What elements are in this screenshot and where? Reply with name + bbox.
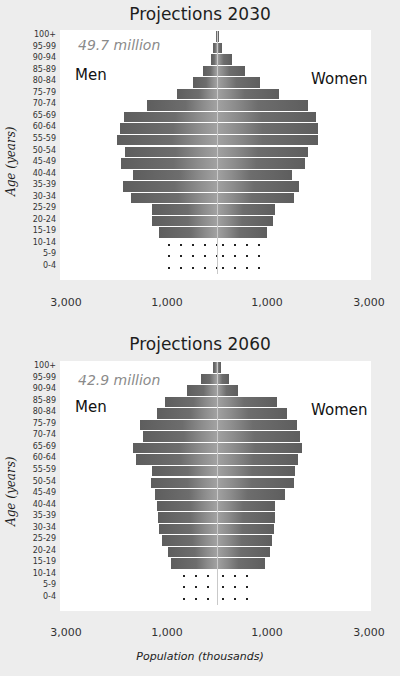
bar-women <box>217 547 270 558</box>
bar-men <box>168 547 217 558</box>
bar-women <box>217 558 265 569</box>
bar-men <box>187 385 217 396</box>
bar-women <box>217 466 295 477</box>
bar-men <box>178 581 217 592</box>
bar-men <box>157 408 217 419</box>
age-group-label: 30-34 <box>33 522 56 533</box>
x-tick: 1,000 <box>251 626 283 639</box>
age-group-label: 90-94 <box>33 383 56 394</box>
bar-men <box>165 397 217 408</box>
bar-women <box>217 512 275 523</box>
chart-title: Projections 2060 <box>0 334 400 354</box>
age-group-label: 80-84 <box>33 406 56 417</box>
age-group-label: 55-59 <box>33 464 56 475</box>
bar-men <box>159 524 217 535</box>
bar-men <box>143 431 217 442</box>
y-axis-title: Age (years) <box>4 456 18 526</box>
bar-women <box>217 431 300 442</box>
bar-women <box>217 593 255 604</box>
women-label: Women <box>311 401 367 419</box>
bar-women <box>217 581 255 592</box>
bar-women <box>217 397 277 408</box>
bar-men <box>155 489 217 500</box>
x-tick: 1,000 <box>151 626 183 639</box>
bar-men <box>162 535 217 546</box>
bar-men <box>158 512 217 523</box>
age-group-label: 15-19 <box>33 556 56 567</box>
x-tick: 3,000 <box>353 626 385 639</box>
age-group-label: 45-49 <box>33 487 56 498</box>
bar-women <box>217 420 297 431</box>
age-group-label: 60-64 <box>33 452 56 463</box>
pyramid-2060: Projections 2060 100+95-9990-9485-8980-8… <box>0 0 400 676</box>
age-group-label: 20-24 <box>33 545 56 556</box>
bar-women <box>217 489 285 500</box>
age-group-label: 75-79 <box>33 418 56 429</box>
bar-women <box>217 408 287 419</box>
bar-men <box>157 501 217 512</box>
age-group-label: 25-29 <box>33 533 56 544</box>
bar-women <box>217 385 238 396</box>
men-label: Men <box>75 398 107 416</box>
bar-men <box>151 478 217 489</box>
bar-men <box>201 374 217 385</box>
bar-men <box>171 558 217 569</box>
age-group-label: 5-9 <box>43 579 56 590</box>
age-group-label: 65-69 <box>33 441 56 452</box>
age-group-label: 10-14 <box>33 568 56 579</box>
bar-women <box>217 501 275 512</box>
center-axis-line <box>217 362 218 605</box>
bar-men <box>178 593 217 604</box>
age-group-label: 100+ <box>34 360 56 371</box>
age-group-label: 85-89 <box>33 395 56 406</box>
bar-men <box>178 570 217 581</box>
age-group-label: 40-44 <box>33 499 56 510</box>
bar-women <box>217 478 294 489</box>
age-group-label: 95-99 <box>33 372 56 383</box>
bar-women <box>217 374 229 385</box>
total-population: 42.9 million <box>78 372 160 388</box>
bar-women <box>217 524 274 535</box>
x-axis-title: Population (thousands) <box>0 650 400 663</box>
age-group-label: 0-4 <box>43 591 56 602</box>
bar-men <box>140 420 217 431</box>
age-group-label: 35-39 <box>33 510 56 521</box>
bar-women <box>217 454 298 465</box>
bar-men <box>152 466 217 477</box>
bar-women <box>217 570 255 581</box>
x-tick: 3,000 <box>50 626 82 639</box>
bar-women <box>217 535 272 546</box>
bar-women <box>217 443 302 454</box>
age-group-label: 70-74 <box>33 429 56 440</box>
bar-men <box>136 454 217 465</box>
bar-men <box>133 443 217 454</box>
age-group-label: 50-54 <box>33 476 56 487</box>
